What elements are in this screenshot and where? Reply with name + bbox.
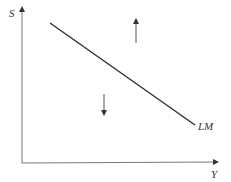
x-axis (22, 162, 216, 163)
lm-curve (50, 23, 195, 125)
x-axis-label: Y (211, 168, 219, 180)
lm-curve-label: LM (197, 120, 214, 132)
lm-diagram: S Y LM (0, 0, 231, 182)
y-axis-label: S (9, 7, 15, 19)
